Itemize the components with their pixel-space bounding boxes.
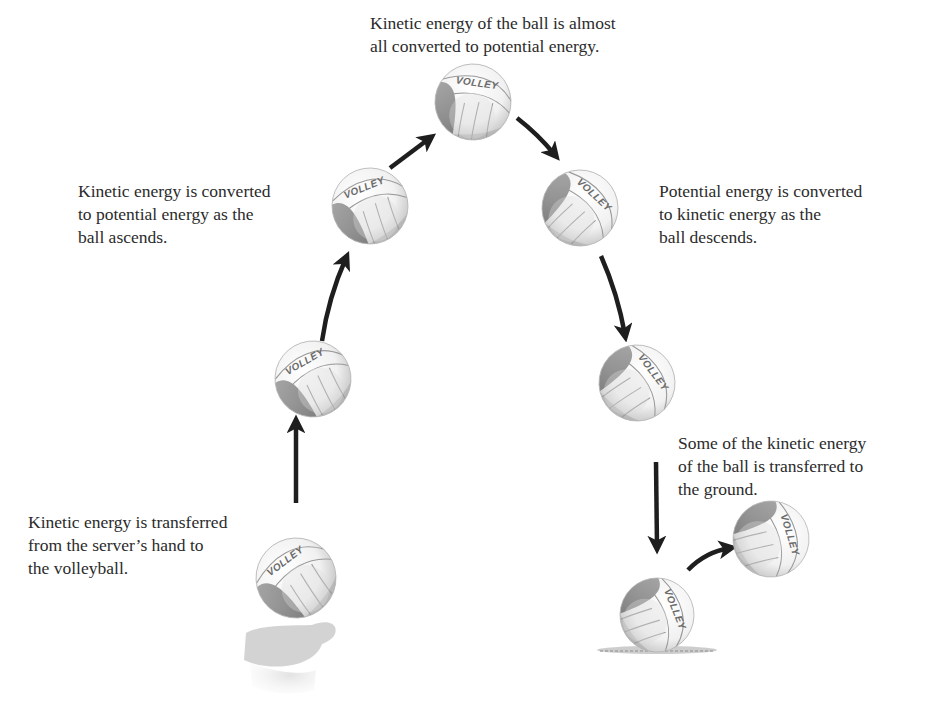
volleyball-rise-2: VOLLEY bbox=[318, 161, 422, 259]
caption-ascend: Kinetic energy is converted to potential… bbox=[78, 180, 271, 249]
arrow-4 bbox=[517, 118, 555, 155]
server-hand-illustration bbox=[244, 622, 336, 693]
diagram-artwork: VOLLEYVOLLEYVOLLEYVOLLEYVOLLEYVOLLEYVOLL… bbox=[0, 0, 945, 714]
volleyball-apex: VOLLEY bbox=[415, 51, 529, 161]
volleyball-fall-2: VOLLEY bbox=[576, 326, 690, 444]
volleyball-rise-1: VOLLEY bbox=[258, 329, 371, 437]
volleyball-bounce: VOLLEY bbox=[722, 490, 813, 588]
arrow-6 bbox=[656, 462, 657, 547]
arrow-2 bbox=[322, 258, 346, 341]
caption-serve: Kinetic energy is transferred from the s… bbox=[28, 511, 227, 580]
volleyball-serve: VOLLEY bbox=[236, 521, 360, 641]
caption-apex: Kinetic energy of the ball is almost all… bbox=[370, 12, 616, 58]
caption-ground: Some of the kinetic energy of the ball i… bbox=[678, 432, 866, 501]
arrow-7 bbox=[688, 548, 730, 570]
volleyballs: VOLLEYVOLLEYVOLLEYVOLLEYVOLLEYVOLLEYVOLL… bbox=[236, 51, 813, 667]
arrow-3 bbox=[390, 138, 430, 168]
arrow-5 bbox=[601, 256, 625, 335]
volleyball-fall-1: VOLLEY bbox=[516, 149, 637, 272]
caption-descend: Potential energy is converted to kinetic… bbox=[659, 180, 862, 249]
